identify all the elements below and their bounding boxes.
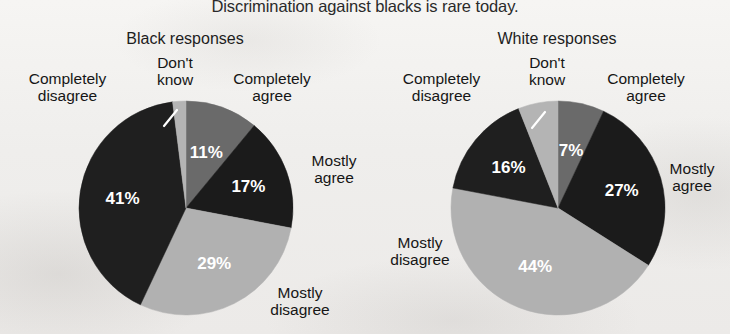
left-value-completely-disagree: 41% xyxy=(106,189,140,208)
right-label-completely-agree-line1: Completely xyxy=(586,70,706,87)
left-value-mostly-agree: 17% xyxy=(231,177,265,196)
right-pie-chart: 7%27%44%16%6% xyxy=(448,98,668,318)
right-value-completely-disagree: 16% xyxy=(491,158,525,177)
left-value-mostly-disagree: 29% xyxy=(197,254,231,273)
left-label-dont-know-line1: Don't xyxy=(130,54,220,71)
left-label-mostly-agree-line1: Mostly xyxy=(294,152,374,169)
right-value-mostly-agree: 27% xyxy=(605,181,639,200)
left-label-mostly-disagree: Mostly disagree xyxy=(252,284,348,318)
left-label-dont-know: Don't know xyxy=(130,54,220,88)
right-label-mostly-disagree-line1: Mostly xyxy=(372,234,468,251)
figure-title: Discrimination against blacks is rare to… xyxy=(0,0,730,16)
right-label-completely-disagree-line1: Completely xyxy=(374,70,509,87)
left-label-mostly-disagree-line1: Mostly xyxy=(252,284,348,301)
right-pie-svg: 7%27%44%16%6% xyxy=(448,98,668,318)
right-label-mostly-agree: Mostly agree xyxy=(654,160,730,194)
left-label-mostly-agree: Mostly agree xyxy=(294,152,374,186)
right-label-completely-disagree: Completely disagree xyxy=(374,70,509,104)
right-label-dont-know-line2: know xyxy=(502,71,592,88)
right-label-completely-agree: Completely agree xyxy=(586,70,706,104)
right-label-completely-agree-line2: agree xyxy=(586,87,706,104)
left-label-completely-disagree-line2: disagree xyxy=(0,87,135,104)
right-label-dont-know-line1: Don't xyxy=(502,54,592,71)
left-label-completely-agree: Completely agree xyxy=(212,70,332,104)
left-label-completely-disagree-line1: Completely xyxy=(0,70,135,87)
left-chart-title: Black responses xyxy=(60,30,310,48)
right-label-mostly-agree-line2: agree xyxy=(654,177,730,194)
right-value-mostly-disagree: 44% xyxy=(518,257,552,276)
left-label-mostly-agree-line2: agree xyxy=(294,169,374,186)
right-label-mostly-disagree-line2: disagree xyxy=(372,251,468,268)
right-label-dont-know: Don't know xyxy=(502,54,592,88)
right-label-mostly-agree-line1: Mostly xyxy=(654,160,730,177)
right-value-completely-agree: 7% xyxy=(559,141,584,160)
right-chart-title: White responses xyxy=(432,30,682,48)
right-label-completely-disagree-line2: disagree xyxy=(374,87,509,104)
figure-root: Discrimination against blacks is rare to… xyxy=(0,0,730,334)
left-label-completely-disagree: Completely disagree xyxy=(0,70,135,104)
left-value-completely-agree: 11% xyxy=(190,143,223,162)
left-label-completely-agree-line2: agree xyxy=(212,87,332,104)
left-label-completely-agree-line1: Completely xyxy=(212,70,332,87)
left-label-dont-know-line2: know xyxy=(130,71,220,88)
right-label-mostly-disagree: Mostly disagree xyxy=(372,234,468,268)
left-label-mostly-disagree-line2: disagree xyxy=(252,301,348,318)
